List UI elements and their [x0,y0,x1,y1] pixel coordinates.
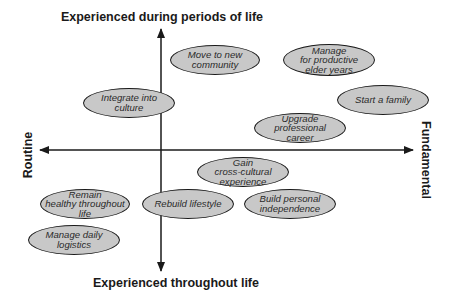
ellipse-node-move: Move to new community [170,45,260,75]
ellipse-node-elder: Manage for productive elder years [283,44,375,76]
axis-label-right: Fundamental [419,121,433,199]
ellipse-node-rebuild: Rebuild lifestyle [142,189,234,219]
ellipse-node-healthy: Remain healthy throughout life [40,189,130,219]
ellipse-node-integrate: Integrate into culture [83,88,175,118]
ellipse-node-family: Start a family [337,85,429,115]
ellipse-node-label: Build personal independence [260,194,321,213]
ellipse-node-career: Upgrade professional career [254,113,346,143]
ellipse-node-label: Rebuild lifestyle [154,199,221,209]
ellipse-node-logistics: Manage daily logistics [28,225,120,255]
axis-label-bottom: Experienced throughout life [93,276,259,290]
ellipse-node-label: Gain cross-cultural experience [214,158,271,187]
axis-label-top: Experienced during periods of life [61,10,263,24]
ellipse-node-label: Move to new community [188,50,242,69]
ellipse-node-label: Integrate into culture [101,93,157,112]
ellipse-node-independence: Build personal independence [244,189,336,219]
ellipse-node-label: Upgrade professional career [274,114,326,143]
ellipse-node-label: Manage for productive elder years [300,46,358,75]
ellipse-node-label: Manage daily logistics [45,230,102,249]
ellipse-node-crosscultural: Gain cross-cultural experience [197,157,289,187]
axis-label-left: Routine [21,132,35,179]
ellipse-node-label: Start a family [355,95,411,105]
ellipse-node-label: Remain healthy throughout life [45,190,124,219]
